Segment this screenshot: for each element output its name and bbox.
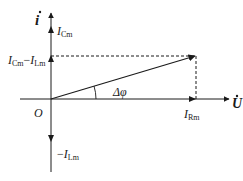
neg-i-lm-arrow-icon (48, 135, 54, 142)
angle-label: Δφ (112, 85, 127, 99)
i-cm-arrow-icon (48, 26, 54, 33)
angle-arc (94, 86, 96, 99)
i-cm-label: ICm (56, 24, 73, 39)
phasor-diagram: i U O ICm ICm−ILm −ILm IRm Δφ (0, 0, 243, 181)
i-rm-arrow-icon (189, 96, 196, 102)
i-axis-dot-icon (39, 11, 41, 13)
i-rm-label: IRm (183, 107, 200, 122)
i-axis-label: i (35, 12, 40, 28)
origin-label: O (34, 106, 43, 120)
u-axis-dot-icon (236, 95, 238, 97)
i-diff-label: ICm−ILm (7, 53, 46, 68)
diagram-svg: i U O ICm ICm−ILm −ILm IRm Δφ (0, 0, 243, 181)
i-cm-sub: Cm (61, 30, 73, 39)
neg-sub: Lm (68, 153, 80, 162)
neg-i-lm-label: −ILm (57, 147, 80, 162)
i-rm-sub: Rm (188, 113, 200, 122)
u-axis-label: U (232, 96, 243, 111)
diff-sub1: Cm (12, 59, 24, 68)
diff-sub2: Lm (34, 59, 46, 68)
